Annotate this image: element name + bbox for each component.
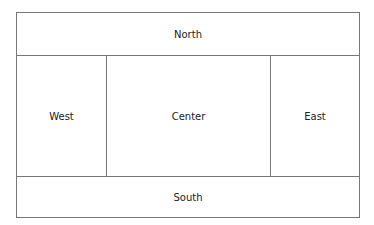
west-label: West: [49, 111, 74, 122]
east-label: East: [304, 111, 326, 122]
border-layout-diagram: North West Center East South: [16, 12, 360, 218]
north-label: North: [174, 29, 202, 40]
east-region: East: [271, 56, 359, 176]
center-label: Center: [172, 111, 206, 122]
south-label: South: [173, 192, 202, 203]
west-region: West: [17, 56, 107, 176]
north-region: North: [17, 13, 359, 56]
center-region: Center: [107, 56, 271, 176]
south-region: South: [17, 176, 359, 217]
